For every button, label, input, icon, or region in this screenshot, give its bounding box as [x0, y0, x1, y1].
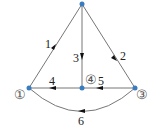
- node-4: [80, 86, 85, 91]
- edge-label-4: 4: [49, 75, 55, 87]
- edge-label-3: 3: [73, 52, 79, 64]
- edge-label-1: 1: [45, 38, 51, 50]
- node-label-1: ①: [14, 89, 26, 101]
- node-1: [27, 86, 32, 91]
- edge-label-5: 5: [98, 75, 104, 87]
- edge-1: [29, 4, 82, 88]
- edge-label-2: 2: [120, 50, 126, 62]
- node-label-3: ③: [136, 89, 148, 101]
- edge-label-6: 6: [78, 115, 84, 127]
- graph-canvas: [0, 0, 154, 134]
- edge-6: [29, 88, 135, 112]
- node-2: [80, 2, 85, 7]
- arrow-edge-6-icon: [78, 109, 85, 113]
- arrow-edge-3-icon: [80, 53, 84, 60]
- node-label-4: ④: [85, 74, 97, 86]
